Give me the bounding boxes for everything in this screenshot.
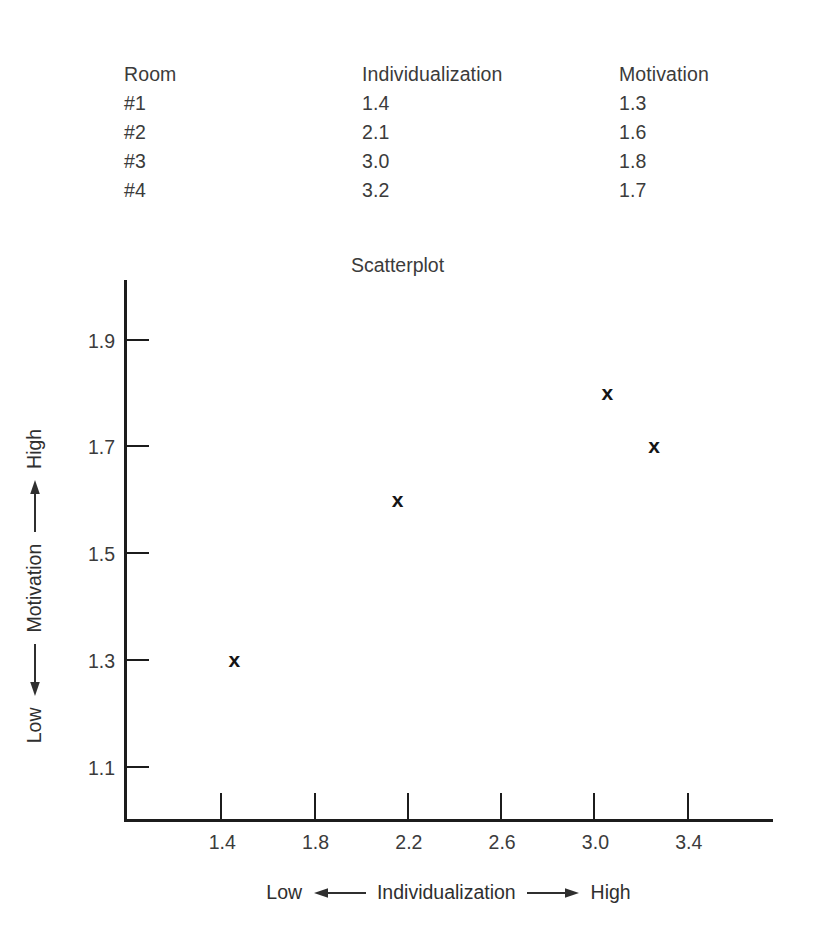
y-axis-tick: 1.9 <box>127 339 149 341</box>
y-axis-name-label: Motivation <box>23 544 45 633</box>
table-row: #4 3.2 1.7 <box>124 176 684 205</box>
column-header-individualization: Individualization <box>362 60 502 89</box>
y-axis-tick-label: 1.7 <box>88 436 115 459</box>
x-axis-title: Low Individualization High <box>124 880 773 904</box>
y-axis-title: Low Motivation High <box>22 376 46 796</box>
x-axis-tick-label: 3.4 <box>675 831 702 854</box>
table-row: #2 2.1 1.6 <box>124 118 684 147</box>
x-axis-tick: 3.0 <box>593 793 595 819</box>
data-point-marker: x <box>228 648 240 669</box>
table-row: #3 3.0 1.8 <box>124 147 684 176</box>
right-arrow-icon <box>527 887 579 899</box>
data-point-marker: x <box>648 435 660 456</box>
cell-motivation: 1.3 <box>619 89 646 118</box>
cell-room: #3 <box>124 147 146 176</box>
cell-individualization: 3.2 <box>362 176 389 205</box>
x-axis-tick-label: 2.2 <box>395 831 422 854</box>
left-arrow-icon <box>314 887 366 899</box>
y-axis-tick: 1.7 <box>127 445 149 447</box>
column-header-motivation: Motivation <box>619 60 709 89</box>
cell-individualization: 3.0 <box>362 147 389 176</box>
cell-motivation: 1.6 <box>619 118 646 147</box>
x-axis-tick: 2.6 <box>500 793 502 819</box>
y-axis-tick-label: 1.1 <box>88 756 115 779</box>
x-axis-tick: 2.2 <box>407 793 409 819</box>
x-axis-tick-label: 1.4 <box>209 831 236 854</box>
x-axis-high-label: High <box>591 881 631 903</box>
y-axis-low-label: Low <box>23 707 45 743</box>
right-arrow-icon <box>29 480 41 532</box>
cell-individualization: 2.1 <box>362 118 389 147</box>
x-axis-name-label: Individualization <box>377 881 516 903</box>
y-axis-high-label: High <box>23 429 45 469</box>
x-axis-tick-label: 1.8 <box>302 831 329 854</box>
x-axis-tick: 1.4 <box>220 793 222 819</box>
x-axis-tick-label: 2.6 <box>489 831 516 854</box>
scatterplot-figure: Scatterplot Low Motivation High 1.11.31.… <box>0 236 815 936</box>
data-point-marker: x <box>602 382 614 403</box>
data-point-marker: x <box>392 488 404 509</box>
x-axis-tick: 1.8 <box>314 793 316 819</box>
column-header-room: Room <box>124 60 176 89</box>
plot-area: 1.11.31.51.71.9 1.41.82.22.63.03.4 xxxx <box>124 280 773 822</box>
chart-title: Scatterplot <box>0 254 805 277</box>
table-header-row: Room Individualization Motivation <box>124 60 684 89</box>
x-axis-tick: 3.4 <box>687 793 689 819</box>
cell-room: #1 <box>124 89 146 118</box>
cell-motivation: 1.8 <box>619 147 646 176</box>
x-axis-low-label: Low <box>266 881 302 903</box>
y-axis-tick: 1.1 <box>127 766 149 768</box>
data-table: Room Individualization Motivation #1 1.4… <box>124 60 684 205</box>
left-arrow-icon <box>29 644 41 696</box>
y-axis-tick-label: 1.5 <box>88 543 115 566</box>
x-axis-tick-label: 3.0 <box>582 831 609 854</box>
table-row: #1 1.4 1.3 <box>124 89 684 118</box>
cell-individualization: 1.4 <box>362 89 389 118</box>
y-axis-tick-label: 1.9 <box>88 329 115 352</box>
y-axis-tick: 1.5 <box>127 552 149 554</box>
cell-motivation: 1.7 <box>619 176 646 205</box>
cell-room: #2 <box>124 118 146 147</box>
y-axis-tick-label: 1.3 <box>88 649 115 672</box>
cell-room: #4 <box>124 176 146 205</box>
y-axis-tick: 1.3 <box>127 659 149 661</box>
